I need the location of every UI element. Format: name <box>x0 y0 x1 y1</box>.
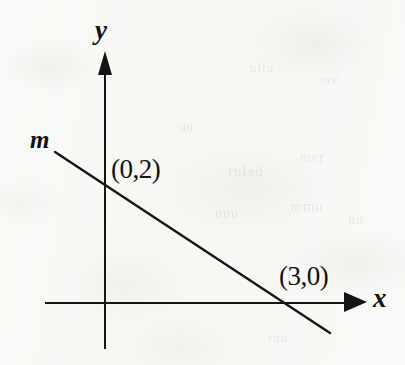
line-m-label: m <box>30 127 49 152</box>
x-intercept-label: (3,0) <box>279 263 328 290</box>
line-m-stroke <box>55 152 330 333</box>
y-intercept-label: (0,2) <box>111 156 160 183</box>
coordinate-plane-figure: ruledmeruuummunuullumvuuruu y x m (0,2) … <box>0 0 405 365</box>
line-m-graph <box>0 0 405 365</box>
y-axis-label: y <box>95 17 107 44</box>
x-axis-label: x <box>373 285 387 312</box>
